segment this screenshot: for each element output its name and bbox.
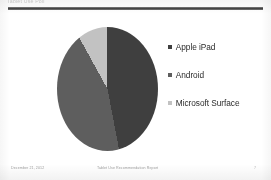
page-title: Tablet Use Poll xyxy=(7,0,45,4)
footer-page-number: 7 xyxy=(254,166,256,170)
legend-item-apple-ipad[interactable]: Apple iPad xyxy=(168,42,268,52)
legend-item-android[interactable]: Android xyxy=(168,70,268,80)
square-swatch-icon xyxy=(168,45,172,49)
legend-label: Android xyxy=(176,70,204,80)
chart-legend: Apple iPad Android Microsoft Surface xyxy=(168,42,268,126)
legend-label: Microsoft Surface xyxy=(176,98,240,108)
footer-date: December 21, 2012 xyxy=(11,166,44,170)
square-swatch-icon xyxy=(168,101,172,105)
pie-slices xyxy=(57,27,158,151)
pie-chart xyxy=(57,27,158,151)
square-swatch-icon xyxy=(168,73,172,77)
slide-canvas: Tablet Use Poll Apple iPad Android Micro… xyxy=(0,0,271,180)
title-divider xyxy=(8,7,263,10)
legend-label: Apple iPad xyxy=(176,42,216,52)
footer-report-title: Tablet Use Recommendation Report xyxy=(97,166,158,170)
legend-item-microsoft-surface[interactable]: Microsoft Surface xyxy=(168,98,268,108)
